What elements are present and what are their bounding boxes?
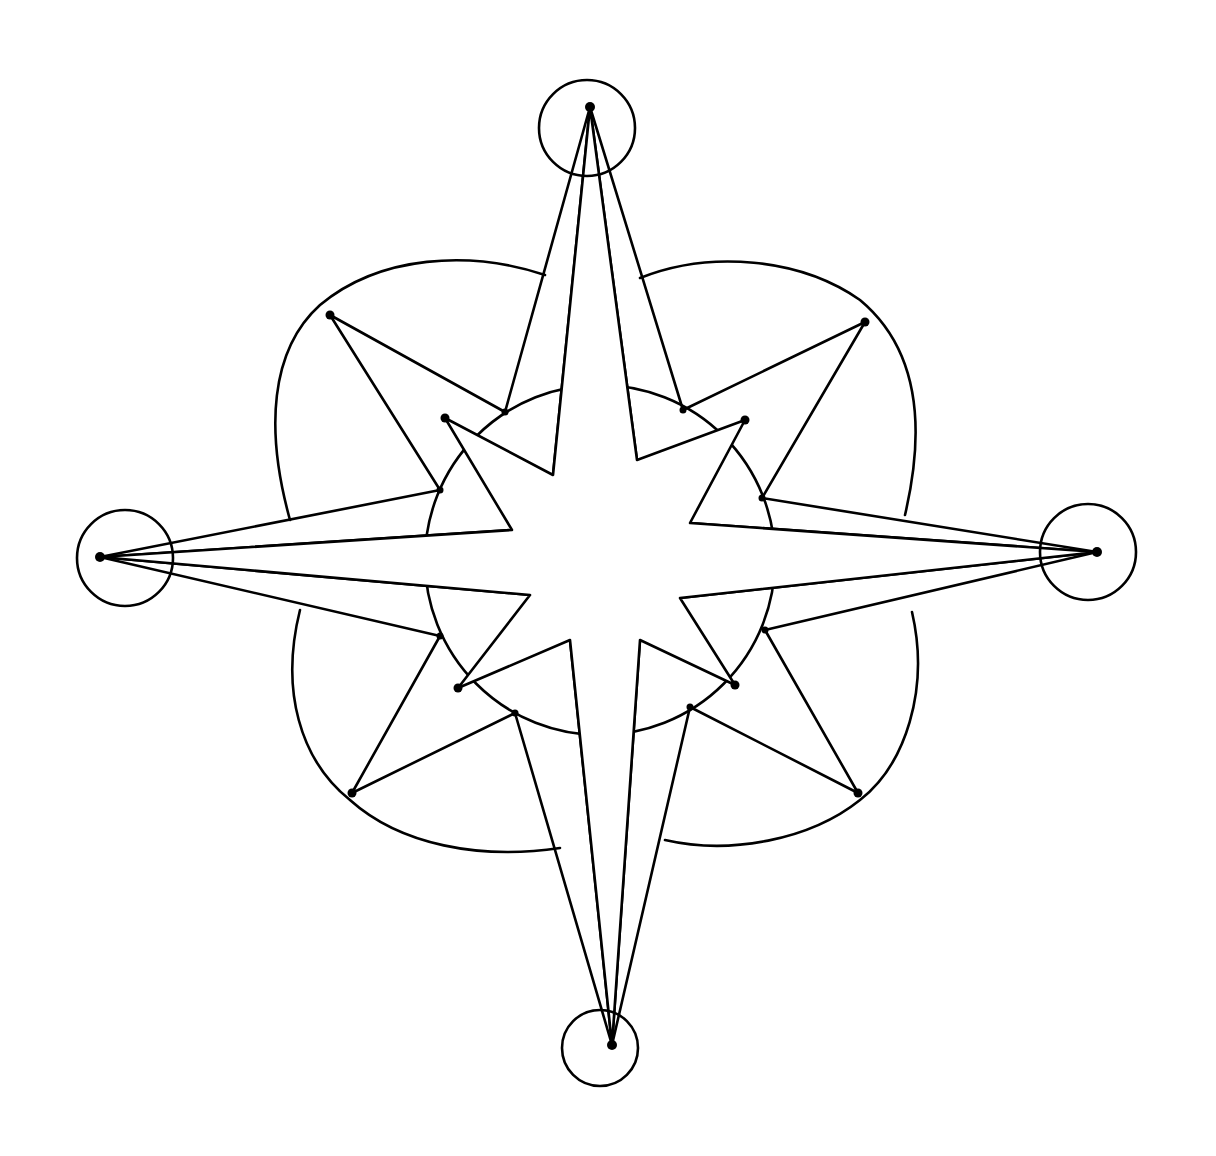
compass-rose-svg xyxy=(0,0,1216,1156)
south-circle xyxy=(562,1010,638,1086)
compass-rose-diagram: Compass rose line drawing xyxy=(0,0,1216,1156)
inner-star xyxy=(100,107,1097,1045)
